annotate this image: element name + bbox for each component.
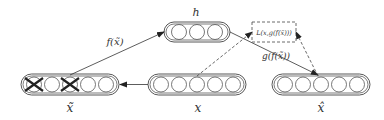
corrupted-unit-cross-icon xyxy=(25,78,43,91)
corrupted-unit-cross-icon xyxy=(61,78,79,91)
label-x-hat: x̂ xyxy=(318,101,325,115)
encoder-label: f(x̃) xyxy=(105,36,123,47)
label-x: x xyxy=(195,101,202,115)
loss-label: L(x,g(f(x̃))) xyxy=(255,29,292,37)
autoencoder-diagram: x̃ h x x̂ L(x,g(f(x̃))) f(x̃) g(f(x̃)) xyxy=(0,0,384,120)
layer-x-tilde xyxy=(21,74,119,95)
label-x-tilde: x̃ xyxy=(67,101,74,115)
decoder-label: g(f(x̃)) xyxy=(262,51,291,61)
layer-h xyxy=(164,22,230,42)
layer-x xyxy=(148,74,246,95)
layer-x-hat xyxy=(272,74,370,95)
label-h: h xyxy=(192,6,199,19)
